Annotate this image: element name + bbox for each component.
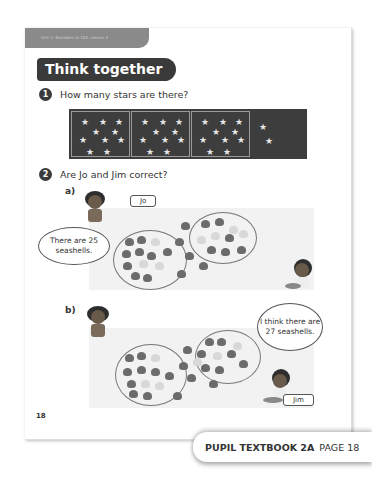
seashell bbox=[175, 238, 184, 246]
seashell bbox=[229, 226, 238, 234]
star: ★ bbox=[163, 148, 171, 157]
star: ★ bbox=[199, 136, 207, 145]
star: ★ bbox=[265, 137, 273, 146]
seashell bbox=[141, 380, 150, 388]
seashell bbox=[221, 248, 230, 256]
pupil-textbook-badge: PUPIL TEXTBOOK 2A PAGE 18 bbox=[193, 432, 372, 462]
seashell bbox=[163, 248, 172, 256]
seashell bbox=[201, 220, 210, 228]
star: ★ bbox=[206, 148, 214, 157]
star: ★ bbox=[103, 148, 111, 157]
star: ★ bbox=[146, 148, 154, 157]
seashell bbox=[125, 238, 134, 246]
seashell bbox=[217, 338, 226, 346]
seashell bbox=[151, 354, 160, 362]
question-2: 2 Are Jo and Jim correct? bbox=[39, 168, 168, 181]
seashell bbox=[187, 374, 196, 382]
star: ★ bbox=[115, 118, 123, 127]
seashell bbox=[183, 346, 192, 354]
star: ★ bbox=[79, 136, 87, 145]
seashell bbox=[211, 232, 220, 240]
star: ★ bbox=[259, 123, 267, 132]
child-jo-illustration bbox=[85, 305, 111, 339]
seashell bbox=[123, 262, 132, 270]
seashell bbox=[209, 380, 218, 388]
star: ★ bbox=[86, 148, 94, 157]
textbook-page: Unit 1: Numbers to 100, Lesson 3 Think t… bbox=[25, 28, 352, 440]
seashell bbox=[135, 248, 144, 256]
star: ★ bbox=[159, 118, 167, 127]
section-title: Think together bbox=[37, 58, 176, 81]
speech-bubble-jo: There are 25 seashells. bbox=[38, 227, 110, 265]
seashell bbox=[185, 252, 194, 260]
seashell bbox=[151, 368, 160, 376]
seashell bbox=[122, 250, 131, 258]
seashell bbox=[213, 352, 222, 360]
star: ★ bbox=[237, 136, 245, 145]
question-1: 1 How many stars are there? bbox=[39, 88, 188, 101]
part-a-label: a) bbox=[65, 186, 75, 196]
star: ★ bbox=[201, 118, 209, 127]
star: ★ bbox=[81, 118, 89, 127]
seashell bbox=[143, 274, 152, 282]
seashell bbox=[233, 342, 242, 350]
question-number-badge: 1 bbox=[39, 88, 52, 101]
stars-grid: ★★★★★★★★★★★★★★★★★★★★★★★★★★★★★★★★ bbox=[69, 109, 307, 159]
part-b-label: b) bbox=[65, 305, 76, 315]
seashell bbox=[143, 392, 152, 400]
seashell bbox=[155, 382, 164, 390]
seashell bbox=[225, 234, 234, 242]
star: ★ bbox=[139, 136, 147, 145]
seashell bbox=[137, 366, 146, 374]
seashell bbox=[179, 362, 188, 370]
seashell bbox=[139, 260, 148, 268]
seashell bbox=[123, 368, 132, 376]
star: ★ bbox=[99, 118, 107, 127]
seashell bbox=[197, 236, 206, 244]
star: ★ bbox=[117, 136, 125, 145]
seashell bbox=[129, 390, 138, 398]
seashell bbox=[215, 218, 224, 226]
seashell-scene-a bbox=[89, 208, 314, 290]
seashell bbox=[215, 366, 224, 374]
seashell bbox=[237, 246, 246, 254]
star: ★ bbox=[212, 128, 220, 137]
child-jo-illustration bbox=[83, 190, 107, 224]
star: ★ bbox=[141, 118, 149, 127]
star: ★ bbox=[152, 128, 160, 137]
seashell bbox=[239, 230, 248, 238]
seashell bbox=[227, 350, 236, 358]
seashell bbox=[205, 338, 214, 346]
seashell bbox=[151, 238, 160, 246]
page-number: 18 bbox=[36, 412, 46, 420]
seashell bbox=[125, 354, 134, 362]
seashell bbox=[181, 222, 190, 230]
seashell bbox=[137, 352, 146, 360]
star: ★ bbox=[177, 136, 185, 145]
seashell bbox=[207, 246, 216, 254]
seashell bbox=[127, 380, 136, 388]
name-tag-jim: Jim bbox=[283, 394, 314, 406]
seashell bbox=[155, 262, 164, 270]
badge-book-title: PUPIL TEXTBOOK 2A bbox=[205, 442, 314, 453]
star: ★ bbox=[101, 136, 109, 145]
speech-bubble-jim: I think there are 27 seashells. bbox=[257, 303, 323, 351]
question-number-badge: 2 bbox=[39, 168, 52, 181]
seashell bbox=[131, 272, 140, 280]
star: ★ bbox=[161, 136, 169, 145]
star: ★ bbox=[219, 118, 227, 127]
seashell bbox=[147, 252, 156, 260]
badge-page: PAGE 18 bbox=[319, 442, 359, 453]
seashell bbox=[201, 364, 210, 372]
question-text: Are Jo and Jim correct? bbox=[60, 169, 168, 180]
child-jim-illustration bbox=[285, 258, 315, 290]
seashell bbox=[165, 372, 174, 380]
seashell bbox=[177, 270, 186, 278]
name-tag-jo: Jo bbox=[130, 195, 156, 207]
seashell bbox=[137, 236, 146, 244]
seashell bbox=[239, 360, 248, 368]
seashell bbox=[193, 358, 202, 366]
seashell bbox=[173, 392, 182, 400]
star: ★ bbox=[223, 148, 231, 157]
star: ★ bbox=[175, 118, 183, 127]
